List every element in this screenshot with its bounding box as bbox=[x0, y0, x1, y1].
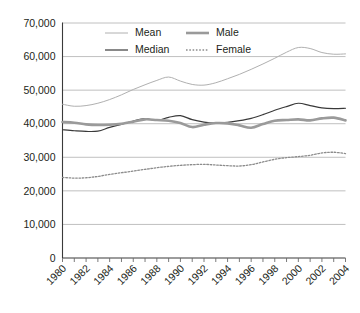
legend-label-male: Male bbox=[216, 26, 239, 38]
x-axis-tick-label: 1996 bbox=[232, 262, 257, 287]
x-axis-tick-label: 1982 bbox=[67, 262, 92, 287]
x-axis-tick-label: 1986 bbox=[114, 262, 139, 287]
legend-label-median: Median bbox=[135, 43, 170, 55]
series-line-median bbox=[63, 103, 346, 131]
x-axis-tick-label: 2000 bbox=[279, 262, 304, 287]
data-series bbox=[63, 47, 346, 178]
y-axis-tick-label: 20,000 bbox=[23, 185, 55, 197]
y-axis-tick-label: 30,000 bbox=[23, 151, 55, 163]
axes bbox=[63, 23, 346, 259]
x-axis-tick-label: 1988 bbox=[138, 262, 163, 287]
x-axis-tick-label: 1994 bbox=[208, 262, 233, 287]
x-axis-tick-label: 1992 bbox=[185, 262, 210, 287]
legend-label-female: Female bbox=[216, 43, 251, 55]
legend-label-mean: Mean bbox=[135, 26, 161, 38]
series-line-male bbox=[63, 118, 346, 128]
x-axis-tick-label: 1990 bbox=[161, 262, 186, 287]
y-axis-tick-label: 40,000 bbox=[23, 117, 55, 129]
line-chart: 70,00060,00050,00040,00030,00020,00010,0… bbox=[0, 0, 360, 313]
x-axis-tick-label: 1980 bbox=[43, 262, 68, 287]
y-axis-tick-label: 60,000 bbox=[23, 50, 55, 62]
y-axis-tick-label: 10,000 bbox=[23, 218, 55, 230]
x-axis-tick-label: 2004 bbox=[326, 262, 351, 287]
y-axis-tick-label: 50,000 bbox=[23, 84, 55, 96]
x-axis-tick-label: 1998 bbox=[256, 262, 281, 287]
chart-legend: MeanMaleMedianFemale bbox=[105, 26, 251, 55]
y-axis-tick-label: 70,000 bbox=[23, 17, 55, 29]
chart-canvas: 70,00060,00050,00040,00030,00020,00010,0… bbox=[0, 0, 360, 313]
series-line-female bbox=[63, 152, 346, 178]
x-axis-tick-label: 1984 bbox=[91, 262, 116, 287]
x-axis-tick-labels: 1980198219841986198819901992199419961998… bbox=[43, 262, 351, 287]
x-axis-tickmarks bbox=[63, 258, 346, 262]
x-axis-tick-label: 2002 bbox=[303, 262, 328, 287]
y-axis-tick-labels: 70,00060,00050,00040,00030,00020,00010,0… bbox=[23, 17, 55, 264]
y-axis-tick-label: 0 bbox=[50, 252, 56, 264]
